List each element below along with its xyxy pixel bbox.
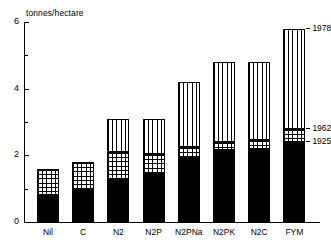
- y-tick-minor: [25, 122, 28, 123]
- bar-segment-1962: [178, 147, 200, 157]
- bar-segment-1962: [213, 142, 235, 150]
- y-tick-label: 6: [5, 17, 19, 26]
- era-annotation-label: 1962: [312, 124, 331, 133]
- bar-segment-1925: [283, 142, 305, 222]
- x-axis-line: [24, 222, 320, 223]
- era-annotation-label: 1925: [312, 137, 331, 146]
- bar-segment-1962: [248, 140, 270, 148]
- y-tick-major: [25, 155, 29, 156]
- bar-segment-1962: [283, 129, 305, 142]
- y-tick-major: [25, 22, 29, 23]
- y-tick-minor: [25, 189, 28, 190]
- bar-segment-1925: [213, 150, 235, 222]
- bar-c: [72, 162, 94, 222]
- era-annotation-1978: 1978: [306, 24, 331, 33]
- bar-segment-1925: [178, 157, 200, 222]
- era-annotation-label: 1978: [312, 24, 331, 33]
- y-tick-minor: [25, 55, 28, 56]
- bar-segment-1925: [107, 179, 129, 222]
- bar-segment-1962: [143, 154, 165, 174]
- bar-nil: [37, 169, 59, 222]
- bar-n2: [107, 119, 129, 222]
- bar-segment-1962: [72, 162, 94, 189]
- bar-segment-1978: [107, 119, 129, 152]
- bar-segment-1962: [37, 169, 59, 196]
- x-axis-label-fym: FYM: [271, 227, 317, 237]
- y-tick-label: 2: [5, 150, 19, 159]
- bar-n2p: [143, 119, 165, 222]
- bar-n2c: [248, 62, 270, 222]
- bar-segment-1925: [37, 195, 59, 222]
- bar-segment-1925: [143, 174, 165, 222]
- bar-segment-1978: [178, 82, 200, 147]
- era-leader-line: [306, 128, 310, 129]
- era-annotation-1962: 1962: [306, 124, 331, 133]
- bar-segment-1978: [283, 29, 305, 129]
- bar-fym: [283, 29, 305, 222]
- y-tick-major: [25, 89, 29, 90]
- y-tick-label: 4: [5, 84, 19, 93]
- y-tick-label: 0: [5, 217, 19, 226]
- bar-segment-1925: [72, 189, 94, 222]
- bar-segment-1978: [143, 119, 165, 154]
- bar-segment-1962: [107, 152, 129, 179]
- era-annotation-1925: 1925: [306, 137, 331, 146]
- bar-segment-1925: [248, 149, 270, 222]
- bar-segment-1978: [248, 62, 270, 140]
- y-tick-major: [25, 222, 29, 223]
- bar-segment-1978: [213, 62, 235, 142]
- era-leader-line: [306, 141, 310, 142]
- bar-n2pna: [178, 82, 200, 222]
- bar-n2pk: [213, 62, 235, 222]
- era-leader-line: [306, 28, 310, 29]
